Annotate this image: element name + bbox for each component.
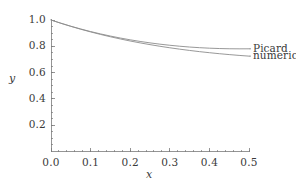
x-tick-label: 0.1 xyxy=(75,156,107,168)
x-tick-label: 0.3 xyxy=(154,156,186,168)
x-tick-label: 0.2 xyxy=(114,156,146,168)
x-tick-label: 0.5 xyxy=(233,156,265,168)
legend-line-stubs xyxy=(249,49,251,56)
y-tick-label: 0.8 xyxy=(29,39,46,51)
x-axis-label: x xyxy=(146,168,152,181)
x-tick-label: 0.4 xyxy=(193,156,225,168)
chart-figure: 0.20.40.60.81.0 0.00.10.20.30.40.5 y x P… xyxy=(0,0,296,188)
y-tick-label: 0.6 xyxy=(29,66,46,78)
y-tick-label: 1.0 xyxy=(29,13,46,25)
series-group xyxy=(51,20,249,56)
x-tick-label: 0.0 xyxy=(35,156,67,168)
y-tick-label: 0.2 xyxy=(29,118,46,130)
series-line-numerical xyxy=(51,20,249,56)
axes-group xyxy=(51,19,249,152)
y-axis-label: y xyxy=(9,72,15,85)
series-label-numerical: numerical xyxy=(253,49,296,61)
y-tick-label: 0.4 xyxy=(29,92,46,104)
